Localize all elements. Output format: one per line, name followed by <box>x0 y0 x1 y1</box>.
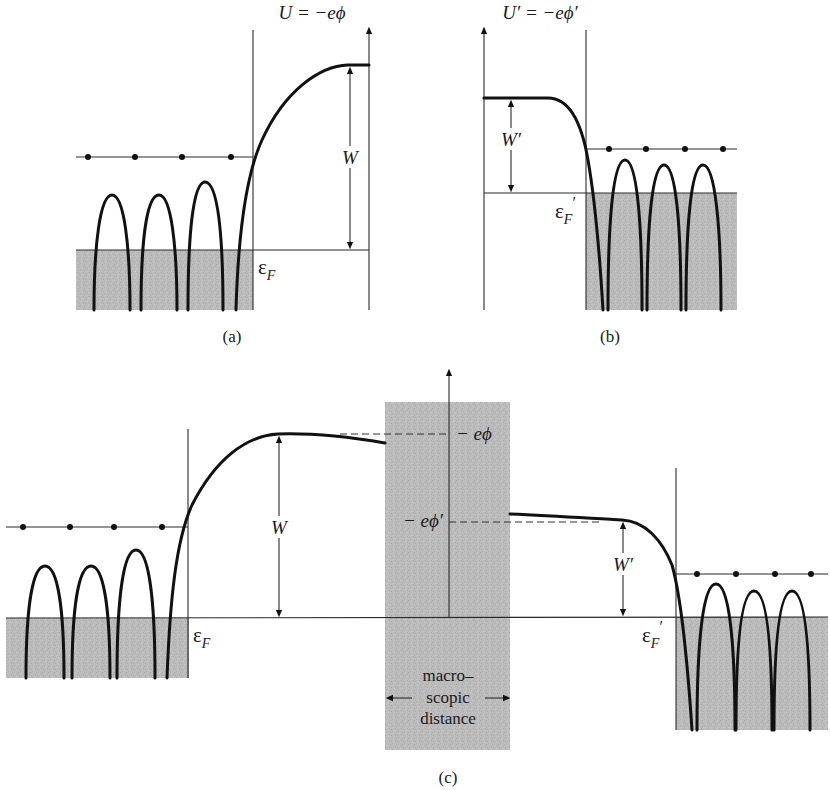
work-function-label-left: W <box>271 517 289 538</box>
work-function-label: W <box>342 147 360 168</box>
right-fermi-level-label: εF′ <box>642 618 663 651</box>
gap-text-line2: scopic <box>426 688 470 707</box>
fermi-level-label: εF <box>258 255 276 283</box>
panel-b-caption: (b) <box>600 327 620 346</box>
level-phi-prime-label: − eϕ′ <box>403 510 444 531</box>
panel-b: W′ εF′ U′ = −eϕ′ (b) <box>484 2 737 346</box>
level-phi-label: − eϕ <box>456 423 492 444</box>
left-fermi-level-label: εF <box>193 623 211 651</box>
right-surface-potential-curve <box>510 514 692 730</box>
fermi-level-label: εF′ <box>555 194 576 227</box>
left-metal-filled-states <box>6 618 189 678</box>
filled-states-region <box>76 250 253 310</box>
potential-axis-label: U′ = −eϕ′ <box>502 2 578 23</box>
surface-potential-curve <box>236 65 369 310</box>
gap-text-line3: distance <box>420 709 476 728</box>
panel-c: W εF − eϕ − eϕ′ macro– scopic distance W… <box>6 372 828 787</box>
panel-c-caption: (c) <box>439 768 458 787</box>
gap-text-line1: macro– <box>423 666 474 685</box>
potential-axis-label: U = −eϕ <box>278 2 345 23</box>
work-function-label: W′ <box>501 129 522 150</box>
work-function-label-right: W′ <box>613 554 634 575</box>
panel-a: W εF U = −eϕ (a) <box>76 2 369 346</box>
panel-a-caption: (a) <box>223 327 242 346</box>
work-function-diagram: W εF U = −eϕ (a) W′ εF′ U′ = −eϕ′ (b) <box>0 0 830 790</box>
